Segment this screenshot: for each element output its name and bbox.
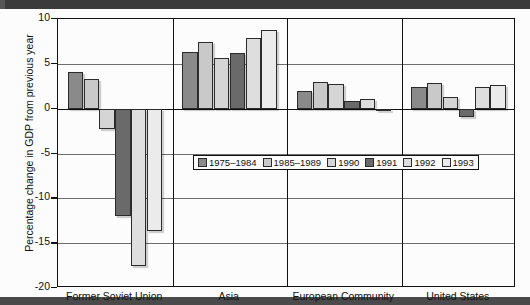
bar: [246, 38, 261, 109]
category-label: Asia: [172, 290, 287, 302]
legend-item[interactable]: 1975–1984: [198, 157, 257, 168]
legend-label: 1990: [338, 157, 359, 168]
chart-figure: Percentage change in GDP from previous y…: [0, 9, 530, 297]
y-tick-label: 10: [8, 11, 50, 23]
bar: [313, 82, 328, 109]
bar: [99, 109, 114, 130]
bar: [376, 109, 391, 111]
y-tick-label: -10: [8, 190, 50, 202]
legend-label: 1975–1984: [209, 157, 257, 168]
bar: [198, 42, 213, 108]
bar: [475, 87, 490, 109]
category-label: Former Soviet Union: [57, 290, 172, 302]
bar: [459, 109, 474, 117]
bar: [328, 84, 343, 109]
bar: [261, 30, 276, 109]
bar: [490, 85, 505, 108]
bar: [360, 99, 375, 109]
legend-swatch-icon: [365, 158, 374, 167]
bar: [182, 52, 197, 108]
legend-swatch-icon: [327, 158, 336, 167]
legend-item[interactable]: 1992: [403, 157, 435, 168]
legend-item[interactable]: 1985–1989: [263, 157, 322, 168]
y-tick-mark: [51, 287, 57, 288]
gridline: [58, 243, 514, 244]
chart-legend: 1975–19841985–19891990199119921993: [193, 155, 479, 170]
legend-label: 1991: [376, 157, 397, 168]
legend-swatch-icon: [442, 158, 451, 167]
bar: [68, 72, 83, 109]
group-separator: [173, 19, 174, 286]
bar: [427, 83, 442, 109]
legend-label: 1992: [414, 157, 435, 168]
legend-swatch-icon: [263, 158, 272, 167]
category-label: United States: [401, 290, 516, 302]
plot-area: [57, 18, 515, 287]
group-separator: [402, 19, 403, 286]
legend-swatch-icon: [198, 158, 207, 167]
bar: [297, 91, 312, 109]
bar: [230, 53, 245, 109]
gridline: [58, 64, 514, 65]
legend-swatch-icon: [403, 158, 412, 167]
group-separator: [287, 19, 288, 286]
legend-label: 1985–1989: [274, 157, 322, 168]
y-tick-label: -15: [8, 235, 50, 247]
bar: [344, 101, 359, 109]
scan-top-band: [0, 0, 530, 9]
bar: [411, 87, 426, 109]
legend-item[interactable]: 1991: [365, 157, 397, 168]
bar: [84, 79, 99, 109]
y-tick-label: 0: [8, 101, 50, 113]
bar: [443, 97, 458, 109]
legend-label: 1993: [453, 157, 474, 168]
bar: [115, 109, 130, 217]
y-tick-label: 5: [8, 56, 50, 68]
bar: [214, 58, 229, 109]
y-tick-label: -20: [8, 280, 50, 292]
legend-item[interactable]: 1990: [327, 157, 359, 168]
legend-item[interactable]: 1993: [442, 157, 474, 168]
bar: [131, 109, 146, 266]
y-tick-label: -5: [8, 146, 50, 158]
category-label: European Community: [286, 290, 401, 302]
bar: [147, 109, 162, 232]
